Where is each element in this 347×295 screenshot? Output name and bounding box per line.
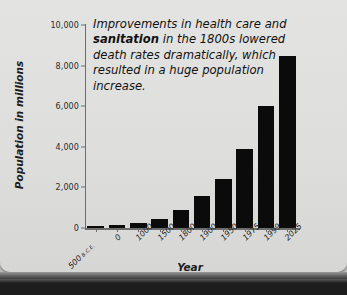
card-bottom-shadow	[0, 272, 347, 279]
annotation-text: Improvements in health care and sanitati…	[93, 17, 289, 94]
bar	[194, 196, 211, 228]
y-axis-tick-mark	[81, 228, 86, 229]
y-axis-tick-mark	[81, 65, 86, 66]
y-axis-tick-mark	[81, 187, 86, 188]
y-axis-title: Population in millions	[13, 50, 25, 200]
y-axis-tick-label: 8,000	[56, 61, 79, 70]
x-axis-tick-label: 0	[113, 232, 123, 242]
annotation-line-2-c: in the	[159, 32, 196, 46]
y-axis-tick-label: 4,000	[56, 142, 79, 151]
chart-card: Population in millions Year 02,0004,0006…	[0, 0, 347, 272]
y-axis-tick-mark	[81, 25, 86, 26]
bar	[215, 179, 232, 228]
y-axis-tick-label: 0	[74, 224, 79, 233]
bar	[236, 149, 253, 228]
y-axis-tick-label: 10,000	[50, 21, 79, 30]
y-axis-tick-mark	[81, 106, 86, 107]
screenshot-stage: Population in millions Year 02,0004,0006…	[0, 0, 347, 295]
x-axis-title: Year	[150, 261, 230, 272]
x-axis-tick-label: 500 B.C.E.	[66, 241, 96, 271]
y-axis-tick-label: 2,000	[56, 183, 79, 192]
annotation-line-2-a: care and	[236, 17, 287, 31]
y-axis-tick-mark	[81, 146, 86, 147]
annotation-line-1: Improvements in health	[93, 17, 232, 31]
bar	[258, 106, 275, 228]
x-axis-tick-mark	[96, 228, 97, 232]
y-axis-tick-label: 6,000	[56, 102, 79, 111]
x-axis-tick-mark	[117, 228, 118, 232]
annotation-emphasis: sanitation	[93, 32, 159, 46]
background-surface-highlight	[0, 279, 347, 283]
x-axis-tick-label-era: B.C.E.	[78, 242, 95, 259]
